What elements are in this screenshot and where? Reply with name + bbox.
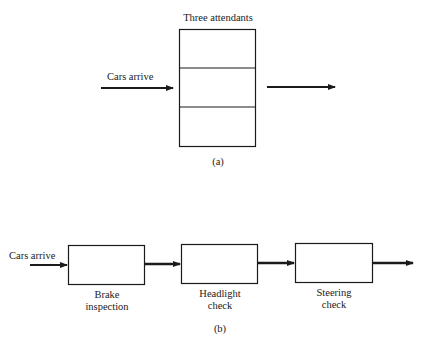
caption-b: (b) (205, 323, 235, 335)
attendants-title: Three attendants (179, 12, 257, 24)
station-label-line2: inspection (68, 301, 146, 313)
station-label-line2: check (295, 299, 373, 311)
station-box-steering (296, 244, 373, 283)
station-label-line1: Headlight (181, 288, 259, 300)
station-label-line2: check (181, 300, 259, 312)
station-box-brake (69, 246, 145, 285)
station-label-brake: Brake inspection (68, 289, 146, 313)
station-label-line1: Steering (295, 287, 373, 299)
station-box-headlight (182, 245, 258, 284)
attendants-box (180, 30, 256, 147)
station-label-steering: Steering check (295, 287, 373, 311)
cars-arrive-label-b: Cars arrive (9, 250, 55, 262)
cars-arrive-label-a: Cars arrive (107, 71, 153, 83)
station-label-line1: Brake (68, 289, 146, 301)
station-label-headlight: Headlight check (181, 288, 259, 312)
caption-a: (a) (203, 156, 233, 168)
diagram-canvas: Three attendants Cars arrive (a) Cars ar… (0, 0, 429, 350)
